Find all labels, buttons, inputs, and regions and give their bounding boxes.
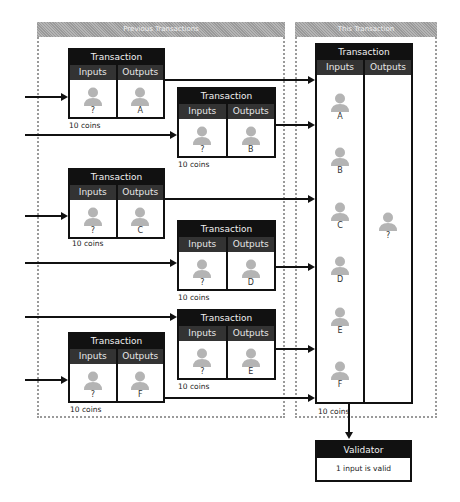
arrowhead-down-icon xyxy=(345,432,353,439)
incoming-arrow-f xyxy=(25,379,62,381)
transaction-title: Transaction xyxy=(70,170,163,185)
connector-c xyxy=(164,198,309,200)
arrowhead-icon xyxy=(170,313,177,321)
incoming-arrow-b xyxy=(25,134,171,136)
connector-e xyxy=(276,348,309,350)
outputs-header: Outputs xyxy=(226,326,275,341)
validator-connector xyxy=(348,403,350,433)
outputs-column: ? xyxy=(363,75,411,402)
input-label: ? xyxy=(70,390,116,399)
arrowhead-icon xyxy=(308,76,315,84)
output-label: B xyxy=(228,145,275,154)
arrowhead-icon xyxy=(61,93,68,101)
person-icon xyxy=(330,306,350,326)
coins-label-b: 10 coins xyxy=(178,160,209,169)
input-label-e: E xyxy=(317,326,363,335)
person-icon xyxy=(330,255,350,275)
output-label: E xyxy=(228,367,275,376)
transaction-title: Transaction xyxy=(70,50,163,65)
arrowhead-icon xyxy=(61,376,68,384)
output-label: ? xyxy=(365,231,411,240)
person-icon xyxy=(241,125,261,145)
incoming-arrow-e xyxy=(25,316,171,318)
transaction-title: Transaction xyxy=(179,311,274,326)
outputs-header: Outputs xyxy=(226,104,275,119)
previous-transactions-header: Previous Transactions xyxy=(37,22,285,37)
coins-label-c: 10 coins xyxy=(72,239,103,248)
person-icon xyxy=(130,86,150,106)
input-label: ? xyxy=(179,145,226,154)
person-icon xyxy=(83,86,103,106)
inputs-header: Inputs xyxy=(179,326,226,341)
transaction-title: Transaction xyxy=(179,89,274,104)
transaction-box-d: Transaction InputsOutputs ? D xyxy=(177,220,276,291)
connector-d xyxy=(276,266,309,268)
input-cell: ? xyxy=(70,200,116,237)
outputs-header: Outputs xyxy=(363,60,411,75)
input-label: ? xyxy=(70,106,116,115)
validator-box: Validator 1 input is valid xyxy=(315,440,412,482)
output-label: A xyxy=(118,106,164,115)
person-icon xyxy=(83,206,103,226)
outputs-header: Outputs xyxy=(226,237,275,252)
arrowhead-icon xyxy=(308,121,315,129)
input-cell: ? xyxy=(70,80,116,117)
outputs-header: Outputs xyxy=(116,185,164,200)
transaction-title: Transaction xyxy=(317,45,411,60)
input-label-d: D xyxy=(317,275,363,284)
inputs-header: Inputs xyxy=(179,104,226,119)
this-transaction-header: This Transaction xyxy=(295,22,437,37)
inputs-column: A B C D E F xyxy=(317,75,363,402)
input-label-b: B xyxy=(317,166,363,175)
inputs-header: Inputs xyxy=(317,60,363,75)
output-cell: F xyxy=(116,364,164,401)
arrowhead-icon xyxy=(308,345,315,353)
inputs-header: Inputs xyxy=(179,237,226,252)
coins-label-e: 10 coins xyxy=(178,382,209,391)
input-label-f: F xyxy=(317,380,363,389)
person-icon xyxy=(330,201,350,221)
person-icon xyxy=(330,92,350,112)
arrowhead-icon xyxy=(61,212,68,220)
input-cell: ? xyxy=(179,341,226,378)
person-icon xyxy=(330,360,350,380)
transaction-box-f: Transaction InputsOutputs ? F xyxy=(68,332,165,403)
input-cell: ? xyxy=(179,252,226,289)
inputs-header: Inputs xyxy=(70,349,116,364)
inputs-header: Inputs xyxy=(70,65,116,80)
input-label-a: A xyxy=(317,112,363,121)
this-transaction-coins: 10 coins xyxy=(318,407,349,416)
transaction-box-c: Transaction InputsOutputs ? C xyxy=(68,168,165,239)
connector-f xyxy=(164,397,309,399)
person-icon xyxy=(192,258,212,278)
person-icon xyxy=(241,347,261,367)
arrowhead-icon xyxy=(308,394,315,402)
input-label: ? xyxy=(179,278,226,287)
input-cell: ? xyxy=(179,119,226,156)
arrowhead-icon xyxy=(308,195,315,203)
person-icon xyxy=(241,258,261,278)
incoming-arrow-c xyxy=(25,215,62,217)
connector-a xyxy=(164,79,309,81)
output-cell: B xyxy=(226,119,275,156)
output-label: C xyxy=(118,226,164,235)
person-icon xyxy=(130,206,150,226)
person-icon xyxy=(130,370,150,390)
person-icon xyxy=(192,347,212,367)
output-cell: A xyxy=(116,80,164,117)
arrowhead-icon xyxy=(170,131,177,139)
connector-b xyxy=(275,124,309,126)
outputs-header: Outputs xyxy=(116,65,164,80)
input-label-c: C xyxy=(317,221,363,230)
output-cell: D xyxy=(226,252,275,289)
person-icon xyxy=(330,146,350,166)
incoming-arrow-a xyxy=(25,96,62,98)
validator-result: 1 input is valid xyxy=(317,458,410,480)
arrowhead-icon xyxy=(170,259,177,267)
inputs-header: Inputs xyxy=(70,185,116,200)
outputs-header: Outputs xyxy=(116,349,164,364)
transaction-title: Transaction xyxy=(179,222,274,237)
transaction-box-e: Transaction InputsOutputs ? E xyxy=(177,309,276,380)
transaction-box-b: Transaction InputsOutputs ? B xyxy=(177,87,276,158)
incoming-arrow-d xyxy=(25,262,171,264)
